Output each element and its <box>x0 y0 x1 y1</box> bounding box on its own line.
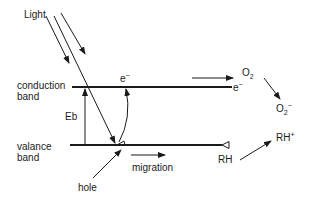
light-text: Light <box>24 9 46 20</box>
rh-plus-label: RH+ <box>276 132 295 143</box>
hole-arrow <box>93 150 121 178</box>
conduction-band-label: conduction band <box>17 80 65 102</box>
excitation-curve-arrow <box>119 89 128 142</box>
superoxide-label: O2− <box>276 103 292 114</box>
rh-plus-text: RH <box>276 132 290 143</box>
eb-text: Eb <box>65 111 77 122</box>
rh-plus-charge: + <box>290 131 294 138</box>
migration-text: migration <box>132 162 173 173</box>
hole-label: hole <box>78 182 97 193</box>
electron-right-label: e− <box>233 82 243 93</box>
electron-cb-charge: − <box>126 72 130 79</box>
valence-band-label: valance band <box>17 141 51 163</box>
electron-right-charge: − <box>239 81 243 88</box>
o2-text: O <box>242 67 250 78</box>
rh-label: RH <box>218 154 232 165</box>
rh-oxidation-arrow <box>240 141 271 160</box>
conduction-band-label-line1: conduction <box>17 80 65 91</box>
valence-band-label-line2: band <box>17 152 51 163</box>
hole-marker-right <box>222 142 229 149</box>
o2-to-superoxide-arrow <box>264 78 280 99</box>
superoxide-text: O <box>276 103 284 114</box>
valence-band-label-line1: valance <box>17 141 51 152</box>
superoxide-charge: − <box>288 102 292 109</box>
superoxide-subscript: 2 <box>284 109 288 116</box>
conduction-band-label-line2: band <box>17 91 65 102</box>
o2-label: O2 <box>242 67 254 78</box>
rh-text: RH <box>218 154 232 165</box>
electron-cb-label: e− <box>120 73 130 84</box>
eb-label: Eb <box>65 111 77 122</box>
migration-label: migration <box>132 162 173 173</box>
o2-subscript: 2 <box>250 73 254 80</box>
hole-text: hole <box>78 182 97 193</box>
light-arrow-2 <box>61 13 85 54</box>
light-label: Light <box>24 9 46 20</box>
